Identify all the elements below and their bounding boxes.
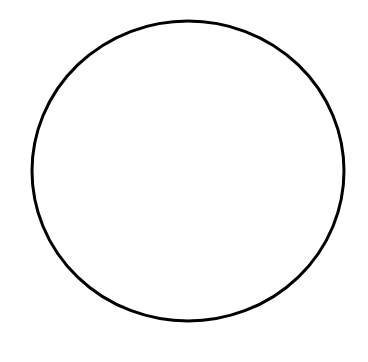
circle-outline [32,21,344,321]
canvas [0,0,368,362]
